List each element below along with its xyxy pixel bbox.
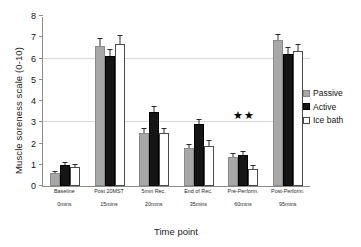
error-bar-cap — [231, 153, 236, 154]
bar-slot — [60, 17, 70, 186]
error-bar-cap — [73, 164, 78, 165]
bar-active — [283, 54, 293, 186]
error-bar-cap — [295, 44, 300, 45]
error-bar-cap — [107, 49, 112, 50]
y-axis-tick-label: 6 — [22, 55, 36, 64]
bar-slot — [283, 17, 293, 186]
bar-icebath — [115, 44, 125, 186]
bar-passive — [50, 173, 60, 186]
x-label-secondary: 95mins — [265, 202, 310, 208]
y-axis-tickmark — [39, 15, 43, 16]
y-axis-tick-labels: 012345678 — [20, 0, 36, 247]
plot-area: ★★ — [42, 17, 310, 187]
y-axis-tick-label: 4 — [22, 97, 36, 106]
x-label-primary: Baseline — [42, 189, 87, 195]
bar-passive — [273, 40, 283, 186]
bar-icebath — [204, 146, 214, 186]
active-swatch — [303, 103, 310, 110]
error-bar-cap — [152, 106, 157, 107]
x-axis-tick-labels: Baseline0minsPost 20MST15mins5min Rec.20… — [42, 189, 310, 208]
error-bar — [109, 50, 110, 56]
bar-slot — [293, 17, 303, 186]
bar-icebath — [70, 167, 80, 186]
bar-group — [177, 17, 222, 186]
x-label-secondary: 20mins — [131, 202, 176, 208]
x-label-secondary: 35mins — [176, 202, 221, 208]
legend-label: Active — [313, 102, 336, 112]
bar-slot — [139, 17, 149, 186]
bar-slot — [238, 17, 248, 186]
bar-group — [132, 17, 177, 186]
error-bar — [233, 154, 234, 157]
bar-group — [88, 17, 133, 186]
error-bar-cap — [63, 162, 68, 163]
bar-active — [194, 124, 204, 186]
error-bar-cap — [97, 38, 102, 39]
legend-item: Passive — [303, 88, 343, 98]
error-bar — [253, 166, 254, 169]
bar-slot — [149, 17, 159, 186]
error-bar — [75, 165, 76, 167]
error-bar-cap — [142, 128, 147, 129]
passive-swatch — [303, 90, 310, 97]
x-label-secondary: 15mins — [87, 202, 132, 208]
error-bar-cap — [251, 165, 256, 166]
bar-slot — [248, 17, 258, 186]
x-label-primary: 5min Rec. — [131, 189, 176, 195]
muscle-soreness-bar-chart: Muscle soreness scale (0-10) 012345678 ★… — [0, 0, 361, 247]
bar-group — [221, 17, 266, 186]
error-bar — [154, 107, 155, 111]
y-axis-tick-label: 0 — [22, 182, 36, 191]
legend-label: Ice bath — [313, 115, 343, 125]
x-label-primary: Post-Perform. — [265, 189, 310, 195]
x-label-primary: End of Rec. — [176, 189, 221, 195]
bar-slot — [50, 17, 60, 186]
error-bar — [297, 45, 298, 51]
error-bar-cap — [117, 35, 122, 36]
bar-active — [149, 112, 159, 186]
legend-label: Passive — [313, 88, 343, 98]
error-bar — [287, 48, 288, 54]
bar-slot — [95, 17, 105, 186]
error-bar-cap — [162, 128, 167, 129]
error-bar-cap — [241, 151, 246, 152]
x-label-primary: Post 20MST — [87, 189, 132, 195]
error-bar — [277, 35, 278, 40]
bar-passive — [184, 148, 194, 186]
x-label-secondary: 60mins — [221, 202, 266, 208]
error-bar — [188, 145, 189, 148]
y-axis-tick-label: 2 — [22, 140, 36, 149]
error-bar-cap — [206, 140, 211, 141]
legend: PassiveActiveIce bath — [303, 88, 343, 129]
error-bar — [243, 152, 244, 155]
bar-icebath — [159, 133, 169, 186]
bar-slot — [115, 17, 125, 186]
x-label-secondary: 0mins — [42, 202, 87, 208]
bar-slot — [204, 17, 214, 186]
error-bar — [65, 163, 66, 165]
error-bar-cap — [53, 171, 58, 172]
x-axis-tick-label: Post-Perform.95mins — [265, 189, 310, 208]
bar-icebath — [248, 169, 258, 186]
y-axis-tick-label: 8 — [22, 12, 36, 21]
error-bar — [208, 141, 209, 145]
bar-passive — [95, 46, 105, 186]
error-bar-cap — [186, 144, 191, 145]
ice-bath-swatch — [303, 117, 310, 124]
error-bar-cap — [196, 119, 201, 120]
significance-marker: ★★ — [233, 110, 255, 121]
x-axis-title: Time point — [42, 226, 310, 237]
y-axis-tick-label: 3 — [22, 118, 36, 127]
x-axis-tick-label: Pre-Perform.60mins — [221, 189, 266, 208]
bar-slot — [273, 17, 283, 186]
bar-slot — [159, 17, 169, 186]
error-bar-cap — [275, 34, 280, 35]
bar-active — [60, 165, 70, 186]
bar-active — [105, 56, 115, 186]
bar-slot — [184, 17, 194, 186]
bar-active — [238, 155, 248, 186]
x-axis-tick-label: 5min Rec.20mins — [131, 189, 176, 208]
y-axis-tick-label: 5 — [22, 76, 36, 85]
bar-passive — [228, 157, 238, 186]
error-bar-cap — [285, 47, 290, 48]
